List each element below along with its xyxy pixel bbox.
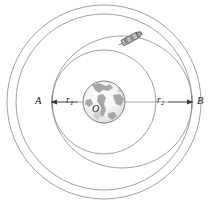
- radius-r2-arrow: [168, 100, 194, 105]
- radius-r1-arrow: [51, 100, 79, 105]
- earth-sphere: [83, 81, 125, 123]
- orbital-transfer-figure: A B O r1 r2: [0, 0, 214, 201]
- spacecraft: [117, 30, 142, 47]
- orbit-diagram-svg: [0, 0, 214, 201]
